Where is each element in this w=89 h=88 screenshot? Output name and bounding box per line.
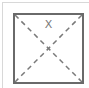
placeholder-label: X — [15, 19, 82, 31]
image-placeholder[interactable]: X — [13, 13, 84, 84]
